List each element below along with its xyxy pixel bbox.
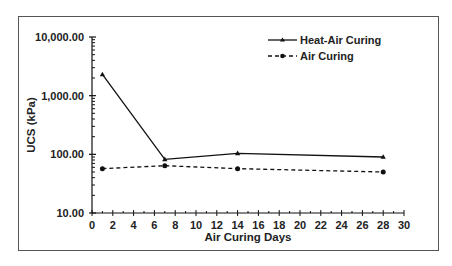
x-tick-label: 14 — [231, 219, 244, 231]
legend-label: Heat-Air Curing — [300, 34, 381, 46]
x-tick-label: 12 — [211, 219, 223, 231]
x-tick-label: 8 — [172, 219, 178, 231]
x-tick-label: 30 — [398, 219, 410, 231]
y-tick-label: 100.00 — [50, 148, 84, 160]
data-point — [235, 166, 240, 171]
legend-item-air-curing: Air Curing — [268, 50, 354, 62]
legend-label: Air Curing — [300, 50, 354, 62]
data-point — [100, 166, 105, 171]
series-layer — [100, 72, 386, 175]
circle-marker-icon — [280, 54, 285, 59]
y-tick-label: 10,000.00 — [35, 31, 84, 43]
y-axis: 10.00100.001,000.0010,000.00 — [35, 31, 96, 219]
x-tick-label: 6 — [151, 219, 157, 231]
x-tick-label: 2 — [110, 219, 116, 231]
data-point — [100, 72, 105, 77]
series-air-curing — [100, 163, 386, 174]
series-heat-air-curing — [100, 72, 386, 162]
x-tick-label: 18 — [273, 219, 285, 231]
legend: Heat-Air Curing Air Curing — [268, 34, 381, 62]
x-tick-label: 22 — [315, 219, 327, 231]
x-axis: 024681012141618202224262830 — [89, 210, 410, 231]
x-axis-title: Air Curing Days — [205, 231, 292, 243]
legend-item-heat-air-curing: Heat-Air Curing — [268, 34, 381, 46]
x-tick-label: 16 — [252, 219, 264, 231]
y-tick-label: 1,000.00 — [41, 90, 84, 102]
data-point — [381, 169, 386, 174]
x-tick-label: 0 — [89, 219, 95, 231]
x-tick-label: 24 — [335, 219, 348, 231]
x-tick-label: 26 — [356, 219, 368, 231]
data-point — [162, 163, 167, 168]
y-axis-title: UCS (kPa) — [25, 97, 37, 153]
line-chart: 10.00100.001,000.0010,000.00 02468101214… — [0, 0, 452, 266]
x-tick-label: 28 — [377, 219, 389, 231]
x-tick-label: 10 — [190, 219, 202, 231]
x-tick-label: 20 — [294, 219, 306, 231]
x-tick-label: 4 — [131, 219, 138, 231]
y-tick-label: 10.00 — [56, 207, 84, 219]
